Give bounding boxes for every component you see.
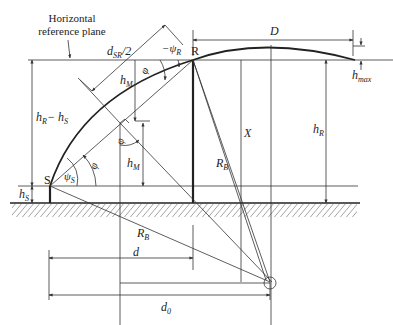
label-h-s: hS [19, 187, 29, 203]
label-reference-plane-1: Horizontal [48, 12, 95, 24]
label-r-b-right: RB [215, 156, 228, 172]
label-h-m-lower: hM [127, 156, 141, 172]
label-hr-minus-hs: hR− hS [36, 110, 68, 126]
label-X: X [243, 126, 252, 140]
dim-D [193, 30, 365, 70]
label-h-max: hmax [352, 68, 372, 84]
dim-d [49, 225, 193, 300]
label-phi-upper: φ [137, 65, 150, 76]
label-D: D [269, 24, 279, 38]
label-d0: d0 [161, 300, 171, 316]
ground [10, 203, 360, 217]
label-reference-plane-2: reference plane [38, 25, 106, 37]
label-point-s: S [44, 173, 51, 187]
label-phi-mid: φ [113, 137, 126, 145]
label-dsr-half: dSR/2 [107, 44, 131, 60]
label-psi-r: −ψR [162, 42, 181, 57]
label-psi-s: ψS [64, 170, 75, 185]
label-d: d [133, 245, 140, 259]
label-phi-lower: φ [87, 161, 100, 171]
label-h-m-upper: hM [120, 73, 134, 89]
label-h-r: hR [313, 122, 324, 138]
geometry-diagram: Horizontal reference plane dSR/2 −ψR R D… [0, 0, 393, 325]
earth-bulge-arc [193, 48, 355, 61]
dim-d0 [49, 282, 270, 300]
reference-plane [28, 40, 393, 60]
label-point-r: R [191, 44, 199, 58]
